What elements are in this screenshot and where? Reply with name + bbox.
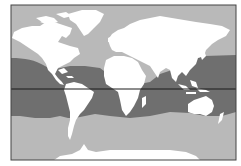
world-map bbox=[0, 0, 241, 166]
